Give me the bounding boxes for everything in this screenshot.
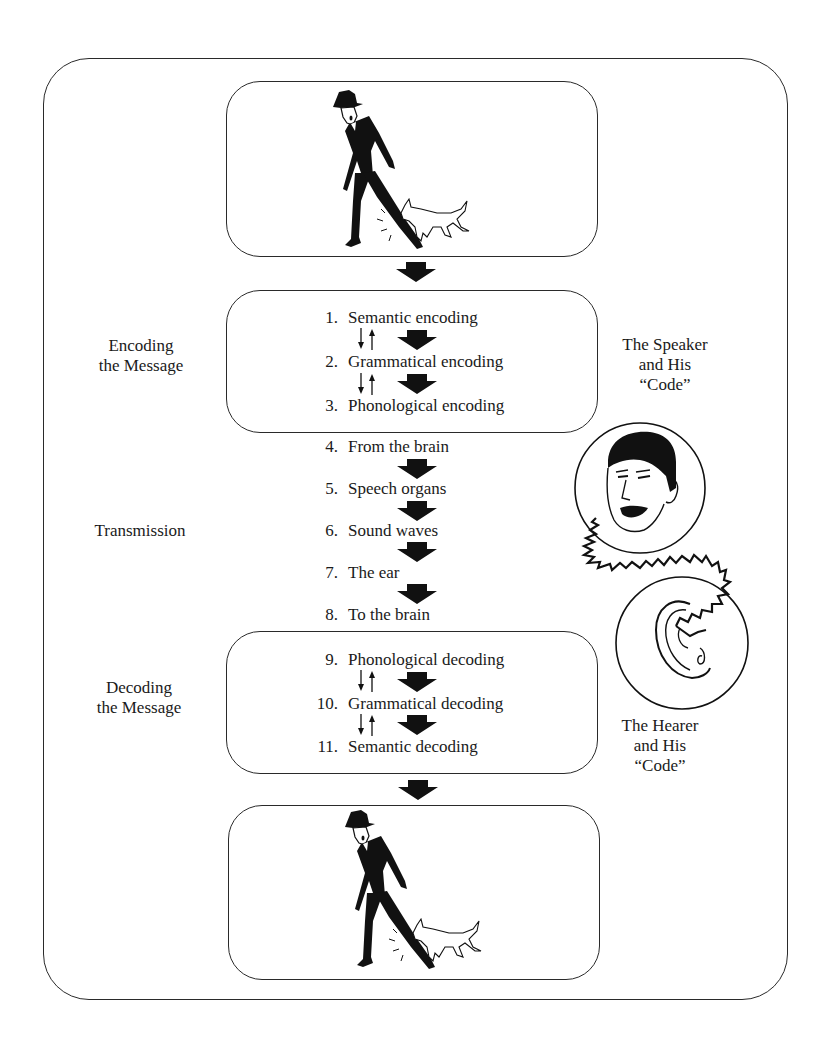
flow-arrow-down-icon: [398, 780, 438, 800]
step-9: 9. Phonological decoding: [348, 650, 504, 670]
flow-arrow-down-icon: [397, 715, 437, 735]
flow-arrow-down-icon: [397, 672, 437, 692]
transmission-stage-label: Transmission: [80, 521, 200, 541]
step-number: 5.: [325, 479, 338, 499]
hearer-label: The Hearer and His “Code”: [600, 716, 720, 776]
label-line: “Code”: [600, 756, 720, 776]
speech-chain-illustration: [560, 415, 828, 720]
stage-label-line: Decoding: [84, 678, 194, 698]
flow-arrow-down-icon: [397, 374, 437, 394]
step-number: 6.: [325, 521, 338, 541]
step-text: Semantic decoding: [348, 737, 478, 756]
step-text: Phonological encoding: [348, 396, 504, 415]
stage-label-line: the Message: [84, 698, 194, 718]
label-line: and His: [605, 355, 725, 375]
label-line: and His: [600, 736, 720, 756]
step-4: 4. From the brain: [348, 437, 449, 457]
encoding-stage-label: Encoding the Message: [86, 336, 196, 376]
step-7: 7. The ear: [348, 563, 399, 583]
step-number: 2.: [325, 352, 338, 372]
flow-arrow-down-icon: [397, 459, 437, 479]
step-number: 4.: [325, 437, 338, 457]
step-3: 3. Phonological encoding: [348, 396, 504, 416]
step-text: To the brain: [348, 605, 430, 624]
step-number: 7.: [325, 563, 338, 583]
step-11: 11. Semantic decoding: [348, 737, 478, 757]
flow-arrow-down-icon: [397, 330, 437, 350]
top-illustration-panel: [226, 81, 598, 257]
flow-arrow-down-icon: [397, 501, 437, 521]
step-10: 10. Grammatical decoding: [348, 694, 503, 714]
bidirectional-arrows-icon: [357, 328, 379, 350]
bidirectional-arrows-icon: [357, 670, 379, 692]
step-text: Sound waves: [348, 521, 438, 540]
bottom-illustration-panel: [228, 805, 600, 980]
step-5: 5. Speech organs: [348, 479, 446, 499]
decoding-stage-label: Decoding the Message: [84, 678, 194, 718]
step-text: Speech organs: [348, 479, 446, 498]
step-6: 6. Sound waves: [348, 521, 438, 541]
step-text: Phonological decoding: [348, 650, 504, 669]
step-number: 9.: [325, 650, 338, 670]
step-number: 1.: [325, 308, 338, 328]
man-bitten-by-dog-illustration-icon: [227, 82, 599, 258]
step-number: 8.: [325, 605, 338, 625]
flow-arrow-down-icon: [396, 262, 436, 282]
stage-label-line: Transmission: [80, 521, 200, 541]
step-text: The ear: [348, 563, 399, 582]
stage-label-line: the Message: [86, 356, 196, 376]
step-number: 10.: [317, 694, 338, 714]
step-text: Grammatical encoding: [348, 352, 503, 371]
step-number: 11.: [317, 737, 338, 757]
flow-arrow-down-icon: [397, 542, 437, 562]
speaker-label: The Speaker and His “Code”: [605, 335, 725, 395]
step-8: 8. To the brain: [348, 605, 430, 625]
step-1: 1. Semantic encoding: [348, 308, 478, 328]
label-line: “Code”: [605, 375, 725, 395]
step-text: From the brain: [348, 437, 449, 456]
step-text: Grammatical decoding: [348, 694, 503, 713]
bidirectional-arrows-icon: [357, 714, 379, 736]
step-2: 2. Grammatical encoding: [348, 352, 503, 372]
label-line: The Hearer: [600, 716, 720, 736]
bidirectional-arrows-icon: [357, 373, 379, 395]
label-line: The Speaker: [605, 335, 725, 355]
step-text: Semantic encoding: [348, 308, 478, 327]
ear-icon: [616, 577, 748, 709]
stage-label-line: Encoding: [86, 336, 196, 356]
flow-arrow-down-icon: [397, 584, 437, 604]
step-number: 3.: [325, 396, 338, 416]
man-bitten-by-dog-illustration-icon: [229, 806, 601, 981]
